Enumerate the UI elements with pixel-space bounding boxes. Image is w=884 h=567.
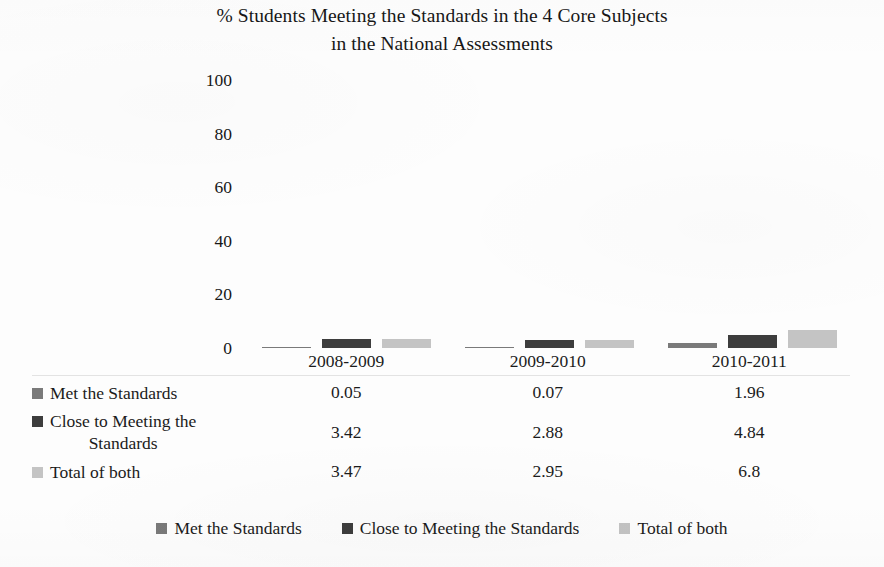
table-row-label-cell: Close to Meeting theStandards bbox=[32, 409, 246, 455]
table-value-cell: 1.96 bbox=[648, 376, 850, 410]
table-row: Close to Meeting theStandards3.422.884.8… bbox=[32, 409, 850, 455]
bar-group bbox=[448, 80, 651, 348]
table-value-cell: 0.07 bbox=[447, 376, 648, 410]
series-name-label-line-2: Standards bbox=[50, 432, 196, 454]
legend-item[interactable]: Met the Standards bbox=[156, 518, 301, 539]
data-table-body: 2008-20092009-20102010-2011Met the Stand… bbox=[32, 348, 850, 488]
legend-item-label: Met the Standards bbox=[174, 518, 301, 539]
table-row-label-cell: Met the Standards bbox=[32, 376, 246, 410]
table-value-cell: 3.42 bbox=[246, 409, 447, 455]
x-axis-category-label: 2008-2009 bbox=[246, 348, 447, 374]
legend-item-label: Close to Meeting the Standards bbox=[360, 518, 580, 539]
bar bbox=[585, 340, 634, 348]
table-value-cell: 3.47 bbox=[246, 455, 447, 488]
bar bbox=[322, 339, 371, 348]
legend-swatch-icon bbox=[342, 523, 353, 534]
bar bbox=[382, 339, 431, 348]
plot-area: 100806040200 bbox=[0, 80, 884, 352]
legend-swatch-icon bbox=[156, 523, 167, 534]
y-axis: 100806040200 bbox=[170, 80, 232, 352]
table-row: Total of both3.472.956.8 bbox=[32, 455, 850, 488]
x-axis-category-label: 2010-2011 bbox=[648, 348, 850, 374]
bars-container bbox=[245, 80, 854, 348]
x-axis-category-label: 2009-2010 bbox=[447, 348, 648, 374]
y-axis-tick: 80 bbox=[170, 126, 232, 144]
y-axis-tick: 40 bbox=[170, 233, 232, 251]
bar bbox=[728, 335, 777, 348]
table-value-cell: 2.88 bbox=[447, 409, 648, 455]
bar-group bbox=[245, 80, 448, 348]
series-swatch-icon bbox=[32, 416, 43, 427]
chart-page: % Students Meeting the Standards in the … bbox=[0, 0, 884, 567]
y-axis-tick: 60 bbox=[170, 179, 232, 197]
series-name-label: Met the Standards bbox=[50, 382, 177, 404]
data-table: 2008-20092009-20102010-2011Met the Stand… bbox=[32, 348, 850, 488]
series-name-label: Total of both bbox=[50, 461, 140, 483]
table-value-cell: 0.05 bbox=[246, 376, 447, 410]
series-swatch-icon bbox=[32, 388, 43, 399]
chart-legend: Met the StandardsClose to Meeting the St… bbox=[0, 518, 884, 539]
y-axis-tick: 100 bbox=[170, 72, 232, 90]
table-value-cell: 4.84 bbox=[648, 409, 850, 455]
chart-title-line-2: in the National Assessments bbox=[0, 30, 884, 58]
legend-swatch-icon bbox=[619, 523, 630, 534]
bar-group bbox=[651, 80, 854, 348]
table-value-cell: 6.8 bbox=[648, 455, 850, 488]
chart-title: % Students Meeting the Standards in the … bbox=[0, 2, 884, 58]
series-name-label: Close to Meeting theStandards bbox=[50, 410, 196, 454]
table-row: Met the Standards0.050.071.96 bbox=[32, 376, 850, 410]
legend-item[interactable]: Close to Meeting the Standards bbox=[342, 518, 580, 539]
legend-item-label: Total of both bbox=[637, 518, 727, 539]
y-axis-tick: 20 bbox=[170, 286, 232, 304]
bar bbox=[525, 340, 574, 348]
table-row-label-cell: Total of both bbox=[32, 455, 246, 488]
chart-title-line-1: % Students Meeting the Standards in the … bbox=[0, 2, 884, 30]
legend-item[interactable]: Total of both bbox=[619, 518, 727, 539]
series-swatch-icon bbox=[32, 467, 43, 478]
bar bbox=[788, 330, 837, 348]
table-value-cell: 2.95 bbox=[447, 455, 648, 488]
table-header-row: 2008-20092009-20102010-2011 bbox=[32, 348, 850, 374]
table-corner-cell bbox=[32, 348, 246, 374]
